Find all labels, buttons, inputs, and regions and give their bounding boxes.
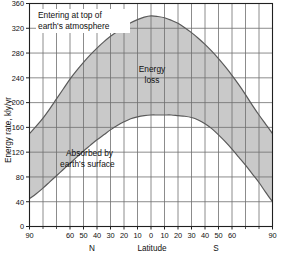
annotation-incoming-line1: Entering at top of xyxy=(38,10,102,20)
y-tick-label: 240 xyxy=(12,74,24,83)
hemisphere-label-south: S xyxy=(213,244,219,253)
chart-canvas: 90605040302010010203040506090 0408012016… xyxy=(0,0,281,259)
x-tick-label: 50 xyxy=(214,231,222,240)
y-tick-label: 80 xyxy=(16,173,24,182)
x-tick-label: 60 xyxy=(66,231,74,240)
x-tick-label: 0 xyxy=(149,231,153,240)
annotation-energy-loss-line2: loss xyxy=(145,75,160,85)
y-tick-label: 0 xyxy=(20,222,24,231)
x-tick-label: 90 xyxy=(25,231,33,240)
x-tick-label: 20 xyxy=(174,231,182,240)
energy-balance-chart: 90605040302010010203040506090 0408012016… xyxy=(0,0,281,259)
x-axis-title: Latitude xyxy=(137,244,167,253)
x-tick-label: 30 xyxy=(187,231,195,240)
annotation-absorbed-line1: Absorbed by xyxy=(66,148,114,158)
x-tick-label: 10 xyxy=(160,231,168,240)
y-tick-label: 160 xyxy=(12,123,24,132)
annotation-absorbed: Absorbed by earth's surface xyxy=(60,148,115,169)
annotation-energy-loss-line1: Energy xyxy=(139,64,166,74)
x-tick-label: 20 xyxy=(120,231,128,240)
x-tick-label: 40 xyxy=(201,231,209,240)
x-tick-label: 60 xyxy=(228,231,236,240)
hemisphere-label-north: N xyxy=(89,244,95,253)
annotation-incoming: Entering at top of earth's atmosphere xyxy=(36,9,130,33)
y-tick-label: 280 xyxy=(12,49,24,58)
y-tick-label: 360 xyxy=(12,0,24,8)
x-tick-label: 30 xyxy=(106,231,114,240)
y-tick-label: 120 xyxy=(12,148,24,157)
annotation-absorbed-line2: earth's surface xyxy=(60,159,115,169)
y-tick-label: 40 xyxy=(16,198,24,207)
y-axis-title: Energy rate, kly/yr xyxy=(4,97,13,163)
annotation-incoming-line2: earth's atmosphere xyxy=(38,21,110,31)
y-tick-label: 320 xyxy=(12,24,24,33)
x-tick-label: 10 xyxy=(133,231,141,240)
x-tick-label: 90 xyxy=(268,231,276,240)
y-tick-label: 200 xyxy=(12,98,24,107)
x-tick-label: 50 xyxy=(79,231,87,240)
x-tick-label: 40 xyxy=(93,231,101,240)
